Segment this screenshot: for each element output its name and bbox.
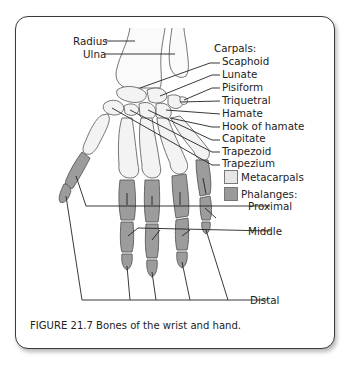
pisiform-bone xyxy=(180,97,188,105)
metacarpal-2 xyxy=(118,118,138,178)
label-metacarpals: Metacarpals xyxy=(241,171,304,183)
metacarpal-1 xyxy=(83,114,109,154)
metacarpal-3 xyxy=(139,118,160,178)
distal-leader xyxy=(66,196,268,300)
ulna-bone xyxy=(169,28,188,77)
legend-swatch-phalanges xyxy=(224,187,238,201)
pisiform-leader xyxy=(184,88,220,100)
lunate-leader xyxy=(160,75,220,96)
lunate-bone xyxy=(147,88,167,103)
label-hamate: Hamate xyxy=(222,107,263,119)
label-triquetral: Triquetral xyxy=(222,94,271,106)
label-distal: Distal xyxy=(250,294,279,306)
label-scaphoid: Scaphoid xyxy=(222,55,269,67)
legend-swatch-metacarpals xyxy=(224,170,238,184)
capitate-bone xyxy=(139,102,156,119)
index-middle xyxy=(120,222,133,252)
label-proximal: Proximal xyxy=(248,200,292,212)
label-ulna: Ulna xyxy=(83,48,106,60)
label-phalanges: Phalanges: xyxy=(241,188,297,200)
label-middle: Middle xyxy=(248,225,282,237)
label-trapezoid: Trapezoid xyxy=(222,145,271,157)
label-lunate: Lunate xyxy=(222,68,257,80)
label-radius: Radius xyxy=(73,35,108,47)
label-capitate: Capitate xyxy=(222,132,266,144)
radius-bone xyxy=(116,28,165,88)
label-hook-of-hamate: Hook of hamate xyxy=(222,120,304,132)
label-trapezium: Trapezium xyxy=(222,157,275,169)
little-distal xyxy=(202,222,211,234)
thumb-proximal-phalanx xyxy=(65,152,90,189)
label-pisiform: Pisiform xyxy=(222,81,263,93)
middle-middle xyxy=(145,224,158,258)
hand-bones-illustration xyxy=(0,0,352,371)
label-carpals-heading: Carpals: xyxy=(214,42,256,54)
ring-distal xyxy=(177,252,188,268)
hamate-leader xyxy=(166,110,220,114)
thumb-distal-phalanx xyxy=(59,184,71,203)
little-middle xyxy=(200,196,212,220)
scaphoid-bone xyxy=(117,86,147,102)
figure-caption: FIGURE 21.7 Bones of the wrist and hand. xyxy=(30,319,241,332)
ring-middle xyxy=(175,218,188,250)
